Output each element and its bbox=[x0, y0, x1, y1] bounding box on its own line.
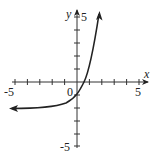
curve-arrow-up-icon bbox=[96, 11, 103, 21]
y-min-label: -5 bbox=[60, 140, 70, 154]
x-axis-label: x bbox=[143, 67, 150, 81]
x-max-label: 5 bbox=[135, 85, 141, 99]
exponential-graph: y 5 x -5 0 5 -5 bbox=[0, 0, 154, 157]
y-axis-label: y bbox=[65, 7, 72, 21]
origin-label: 0 bbox=[67, 85, 73, 99]
y-max-label: 5 bbox=[81, 10, 87, 24]
x-min-label: -5 bbox=[4, 85, 14, 99]
exponential-curve bbox=[12, 14, 99, 109]
